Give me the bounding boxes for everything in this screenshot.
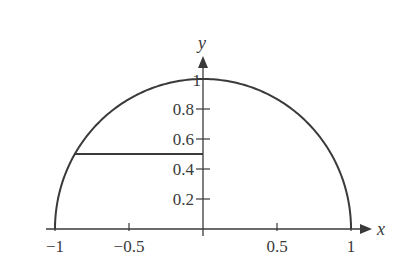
y-tick-label: 0.8 [173, 100, 194, 119]
y-axis-arrow-icon [198, 56, 208, 68]
x-axis-arrow-icon [360, 224, 372, 234]
y-tick-label: 1 [193, 71, 202, 90]
chart: xy−1−0.50.510.20.40.60.81 [0, 0, 408, 259]
x-tick-label: −0.5 [114, 237, 145, 256]
x-axis-label: x [376, 219, 385, 239]
y-axis-label: y [196, 33, 206, 53]
y-tick-label: 0.6 [173, 130, 194, 149]
x-tick-label: −1 [46, 237, 64, 256]
x-tick-label: 0.5 [266, 237, 287, 256]
x-tick-label: 1 [347, 237, 356, 256]
y-tick-label: 0.2 [173, 190, 194, 209]
y-tick-label: 0.4 [173, 160, 195, 179]
